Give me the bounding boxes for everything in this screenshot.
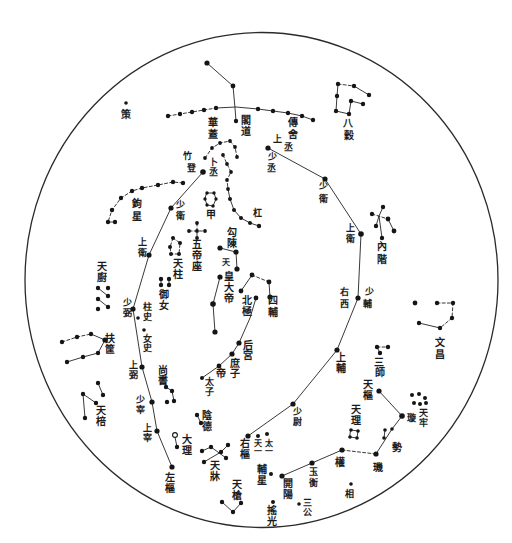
star-label-char: 上: [138, 236, 147, 247]
star-label: 天槍: [231, 479, 243, 501]
star-label-char: 華: [208, 116, 218, 128]
star-label-char: 一: [254, 446, 262, 456]
star-dot: [370, 212, 374, 216]
star-dot: [375, 345, 379, 349]
star-dot: [248, 221, 252, 225]
star-dot: [110, 208, 114, 212]
star-dot: [269, 472, 273, 476]
star-chart-page: 策華蓋閣道傳舍八穀竹登卜丞上丞少丞杠甲鉤星少衛上衛天柱五帝座勾陳天皇大帝北極四輔…: [0, 0, 512, 543]
star-label: 扶筐: [105, 332, 116, 355]
star-label-char: 穀: [343, 129, 355, 141]
star-dot: [231, 84, 236, 89]
star-dot: [424, 401, 428, 405]
star-dot: [417, 321, 421, 325]
star-dot: [226, 443, 230, 447]
star-label: 天牀: [210, 460, 221, 482]
star-dot: [168, 245, 172, 249]
star-label-char: 右: [339, 286, 349, 297]
star-label-char: 衛: [175, 210, 185, 221]
star-label-char: 丞: [209, 167, 218, 177]
constellation-line: [241, 275, 252, 291]
star-label: 女史: [143, 333, 153, 353]
star-label: 勾陳: [227, 226, 238, 249]
star-dot: [169, 252, 173, 256]
star-label: 天棓: [96, 405, 107, 427]
asterism-tianzhu: [168, 236, 182, 256]
star-dot: [233, 249, 238, 254]
star-label-char: 尉: [293, 416, 302, 427]
star-label-char: 右: [239, 437, 250, 449]
star-label-char: 星: [132, 211, 142, 222]
asterism-dali: [173, 433, 180, 450]
asterism-nushi: [142, 328, 146, 332]
star-label-char: 衛: [345, 233, 355, 244]
star-label-char: 權: [335, 456, 345, 468]
star-dot: [136, 316, 140, 320]
star-dot: [225, 178, 229, 182]
star-label-char: 甲: [206, 209, 216, 220]
star-label-char: 內: [377, 240, 387, 252]
constellation-line: [207, 63, 236, 121]
star-label-char: 傳: [287, 116, 298, 128]
asterism-wudizuo: [187, 221, 207, 240]
star-dot: [382, 436, 386, 440]
star-dot: [96, 297, 100, 301]
star-label-char: 道: [241, 125, 251, 137]
asterism-gedao: [204, 60, 238, 123]
star-label-char: 上: [336, 351, 346, 363]
star-dot: [256, 107, 260, 111]
star-label-char: 少: [318, 180, 328, 191]
star-label: 鉤星: [131, 197, 142, 222]
asterism-xiang: [349, 482, 353, 486]
star-dot: [83, 416, 87, 420]
star-dot: [349, 482, 353, 486]
star-dot: [187, 229, 191, 233]
star-label-char: 衡: [309, 477, 318, 488]
label-layer: 策華蓋閣道傳舍八穀竹登卜丞上丞少丞杠甲鉤星少衛上衛天柱五帝座勾陳天皇大帝北極四輔…: [96, 108, 446, 527]
star-dot: [352, 84, 356, 88]
star-label-char: 公: [303, 507, 312, 517]
star-label-char: 少: [364, 286, 374, 297]
star-dot: [376, 388, 381, 393]
star-dot: [231, 510, 235, 514]
constellation-line: [354, 86, 369, 95]
star-dot: [265, 145, 270, 150]
star-dot: [267, 280, 272, 285]
star-dot: [142, 328, 146, 332]
star-label-char: 四: [268, 295, 278, 306]
star-chart: 策華蓋閣道傳舍八穀竹登卜丞上丞少丞杠甲鉤星少衛上衛天柱五帝座勾陳天皇大帝北極四輔…: [0, 0, 512, 543]
star-dot: [254, 296, 259, 301]
star-label-char: 皇: [224, 270, 234, 282]
star-dot: [300, 114, 304, 118]
star-dot: [383, 428, 387, 432]
star-dot: [140, 186, 144, 190]
star-label: 內階: [377, 240, 387, 265]
star-label-char: 西: [340, 299, 349, 309]
star-dot: [355, 295, 360, 300]
star-label: 相: [345, 488, 354, 499]
star-label-char: 璇: [407, 412, 417, 423]
star-dot: [101, 393, 105, 397]
star-label-char: 天: [363, 379, 374, 390]
asterism-tianli: [348, 428, 360, 440]
star-label-char: 衛: [318, 193, 328, 204]
star-dot: [106, 220, 110, 224]
star-label: 天: [222, 257, 231, 267]
star-label: 開陽: [283, 478, 293, 500]
star-label-char: 棓: [96, 415, 106, 427]
star-dot: [190, 110, 194, 114]
star-label: 北極: [242, 294, 252, 317]
star-dot: [65, 360, 69, 364]
star-dot: [361, 102, 365, 106]
star-dot: [347, 112, 351, 116]
star-label-char: 牢: [419, 417, 428, 428]
star-label: 上衛: [345, 222, 355, 244]
star-dot: [239, 289, 244, 294]
star-label-char: 樞: [240, 448, 250, 460]
star-label-char: 柱: [173, 268, 183, 280]
star-label: 策: [121, 108, 132, 120]
asterism-yunu: [159, 277, 171, 287]
star-dot: [200, 449, 204, 453]
star-label: 陰德: [201, 409, 213, 432]
star-dot: [173, 433, 178, 438]
